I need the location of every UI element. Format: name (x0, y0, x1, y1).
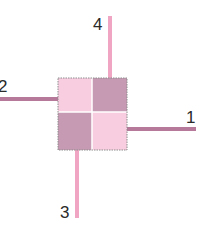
arm-label-2: 2 (0, 77, 7, 96)
quadrant-top-left (58, 78, 92, 112)
arm-label-3: 3 (60, 203, 69, 222)
quadrant-bottom-left (58, 112, 92, 150)
quadrant-diagram: 1 2 3 4 (0, 0, 214, 229)
arm-label-4: 4 (93, 15, 102, 34)
quadrant-top-right (92, 78, 127, 112)
quadrant-bottom-right (92, 112, 127, 150)
arm-label-1: 1 (186, 108, 195, 127)
